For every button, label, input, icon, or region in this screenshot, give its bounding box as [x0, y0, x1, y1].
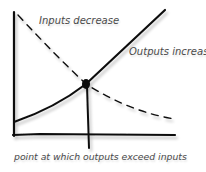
outputs-label: Outputs increase [129, 46, 206, 57]
inputs-label: Inputs decrease [39, 15, 119, 26]
crossover-label: point at which outputs exceed inputs [14, 151, 187, 162]
inputs-curve [18, 15, 175, 119]
crossover-point [82, 79, 90, 89]
crossover-marker-line [87, 86, 89, 148]
outputs-curve [14, 10, 165, 122]
x-axis [13, 134, 175, 135]
